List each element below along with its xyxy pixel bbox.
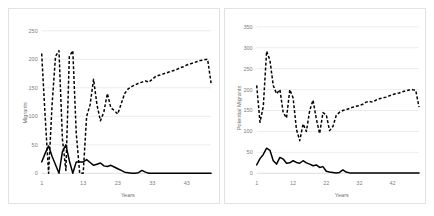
right-chart-ytick: 350 <box>243 24 252 30</box>
right-chart-ytick: 100 <box>243 128 252 134</box>
left-chart-ytick: 200 <box>28 56 37 62</box>
right-chart-series-migrants-solid <box>257 148 419 173</box>
left-chart-ylabel: Migrants <box>22 102 28 123</box>
right-chart-xtick-labels: 112223242 <box>255 180 395 186</box>
left-chart-svg: 050100150200250 113233343 Migrants Years <box>9 9 219 203</box>
left-chart-series-potential-migrants-dashed <box>42 51 211 174</box>
right-chart-xtick: 42 <box>389 180 395 186</box>
left-chart-ytick: 250 <box>28 28 37 34</box>
right-chart-xtick: 1 <box>255 180 258 186</box>
right-chart-xlabel: Years <box>335 192 349 198</box>
right-chart-ytick: 300 <box>243 45 252 51</box>
right-chart-xtick: 32 <box>356 180 362 186</box>
right-chart-series-potential-migrants-dashed <box>257 51 419 141</box>
right-chart-ytick: 50 <box>247 149 253 155</box>
right-chart-ytick-labels: 050100150200250300350 <box>243 24 252 176</box>
right-chart-ylabel: Potential Migrants <box>236 86 242 130</box>
right-chart-xtick: 12 <box>290 180 296 186</box>
left-chart-xtick: 23 <box>115 180 121 186</box>
left-chart-ytick: 0 <box>35 170 38 176</box>
right-chart-svg: 050100150200250300350 112223242 Potentia… <box>225 9 425 203</box>
left-chart-xlabel: Years <box>121 192 135 198</box>
right-chart-ytick: 150 <box>243 108 252 114</box>
right-chart-ytick: 200 <box>243 87 252 93</box>
left-chart-ytick: 50 <box>32 142 38 148</box>
left-chart-series <box>42 51 211 174</box>
left-chart-ytick: 150 <box>28 85 37 91</box>
right-chart-ytick: 250 <box>243 66 252 72</box>
chart-panel-right: 050100150200250300350 112223242 Potentia… <box>224 8 426 204</box>
left-chart-xtick-labels: 113233343 <box>40 180 190 186</box>
left-chart-xtick: 33 <box>149 180 155 186</box>
right-chart-ytick: 0 <box>250 170 253 176</box>
left-chart-ytick-labels: 050100150200250 <box>28 28 37 177</box>
left-chart-xtick: 43 <box>184 180 190 186</box>
figure-container: 050100150200250 113233343 Migrants Years… <box>0 0 434 216</box>
left-chart-series-migrants-solid <box>42 145 211 174</box>
right-chart-xtick: 22 <box>323 180 329 186</box>
left-chart-ytick: 100 <box>28 113 37 119</box>
chart-panel-left: 050100150200250 113233343 Migrants Years <box>8 8 220 204</box>
left-chart-xtick: 13 <box>80 180 86 186</box>
right-chart-series <box>257 51 419 173</box>
left-chart-xtick: 1 <box>40 180 43 186</box>
